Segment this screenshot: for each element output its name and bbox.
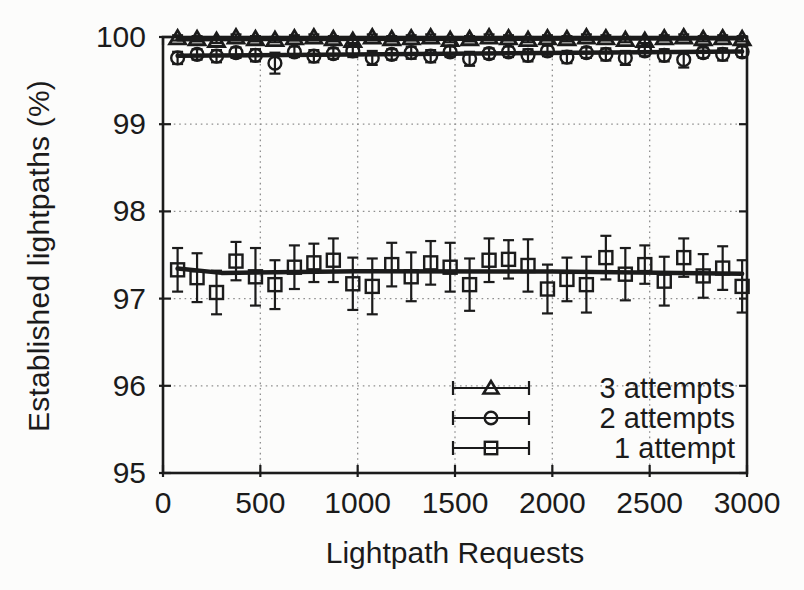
x-tick-label: 1500 (422, 486, 489, 519)
y-tick-label: 98 (113, 194, 146, 227)
legend-row-3-attempts: 3 attempts (449, 373, 735, 403)
x-tick-label: 3000 (714, 486, 781, 519)
x-tick-label: 1000 (324, 486, 391, 519)
y-axis-title: Established lightpaths (%) (22, 38, 54, 474)
y-tick-label: 95 (113, 456, 146, 489)
legend-label: 3 attempts (541, 373, 735, 403)
plot-svg: 0500100015002000250030009596979899100 (0, 0, 804, 590)
series-3-attempts (170, 30, 751, 47)
chart-figure: 0500100015002000250030009596979899100 Es… (0, 0, 804, 590)
y-tick-label: 100 (96, 20, 146, 53)
x-tick-label: 2500 (616, 486, 683, 519)
x-tick-label: 500 (235, 486, 285, 519)
trend-line (178, 38, 743, 39)
y-tick-label: 97 (113, 282, 146, 315)
legend: 3 attempts 2 attempts 1 attempt (449, 373, 735, 463)
x-tick-label: 0 (155, 486, 172, 519)
series-1-attempt (171, 236, 749, 314)
legend-label: 1 attempt (541, 433, 735, 463)
x-axis-title: Lightpath Requests (163, 536, 747, 570)
legend-row-1-attempt: 1 attempt (449, 433, 735, 463)
errorbar-sample-icon (449, 407, 533, 429)
x-tick-label: 2000 (519, 486, 586, 519)
errorbar-sample-icon (449, 437, 533, 459)
series-2-attempts (171, 45, 748, 74)
legend-label: 2 attempts (541, 403, 735, 433)
y-tick-label: 99 (113, 107, 146, 140)
errorbar-sample-icon (449, 377, 533, 399)
y-tick-label: 96 (113, 369, 146, 402)
legend-row-2-attempts: 2 attempts (449, 403, 735, 433)
